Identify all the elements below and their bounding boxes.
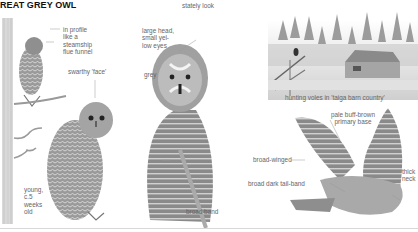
label-line: old (24, 208, 43, 215)
label-line: low eyes (142, 42, 174, 49)
label-line: flue funnel (63, 48, 93, 55)
label-line: thick (402, 168, 416, 175)
branches-illustration (14, 128, 42, 158)
bottom-divider (0, 228, 418, 229)
label-line: primary base (331, 118, 375, 125)
label-stately-look: stately look (182, 2, 214, 9)
label-broad-winged: broad-winged (253, 156, 292, 163)
label-line: large head, (142, 27, 174, 34)
label-line: c.5 (24, 193, 43, 200)
label-line: small yel- (142, 34, 174, 41)
label-thick-neck: thick neck (402, 168, 416, 183)
label-swarthy-face: swarthy 'face' (68, 68, 106, 75)
label-hunting: hunting voles in 'taiga barn country' (285, 94, 385, 101)
label-grey: grey (144, 71, 156, 78)
label-line: steamship (63, 41, 93, 48)
tree-trunk-illustration (2, 18, 13, 224)
taiga-landscape-illustration (268, 12, 418, 100)
label-broad-tail-band: broad dark tail-band (248, 180, 305, 187)
label-profile: in profile like a steamship flue funnel (63, 26, 93, 56)
label-line: pale buff-brown (331, 111, 375, 118)
label-large-head: large head, small yel- low eyes (142, 27, 174, 49)
label-pale-buff: pale buff-brown primary base (331, 111, 375, 126)
label-line: neck (402, 175, 416, 182)
label-young: young, c.5 weeks old (24, 186, 43, 216)
owl-profile-illustration (14, 37, 66, 106)
owl-adult-illustration (147, 44, 213, 228)
label-line: young, (24, 186, 43, 193)
label-line: weeks (24, 201, 43, 208)
label-line: like a (63, 33, 93, 40)
label-line: in profile (63, 26, 93, 33)
label-broad-band: broad band (186, 208, 218, 215)
owl-young-illustration (47, 102, 113, 220)
